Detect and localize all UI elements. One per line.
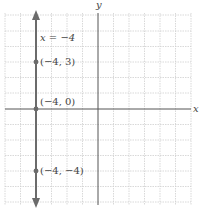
line-label: x = −4 bbox=[40, 33, 75, 43]
point-neg4-0 bbox=[34, 107, 39, 112]
point-neg4-3 bbox=[34, 60, 39, 65]
coordinate-plane bbox=[0, 0, 200, 214]
arrow-down-icon bbox=[32, 198, 40, 208]
point-label: (−4, 3) bbox=[40, 57, 75, 67]
point-label: (−4, −4) bbox=[40, 166, 84, 176]
y-axis-label: y bbox=[96, 0, 102, 10]
point-label: (−4, 0) bbox=[40, 97, 75, 107]
point-neg4-neg4 bbox=[34, 169, 39, 174]
x-axis-label: x bbox=[193, 104, 199, 114]
